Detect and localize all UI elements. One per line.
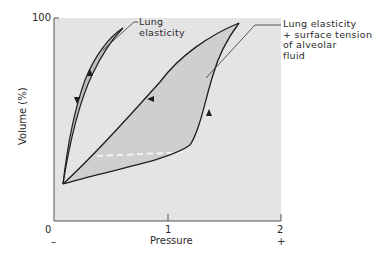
small-loop-annotation: Lung elasticity: [139, 17, 185, 38]
x-axis-minus-sign: –: [51, 236, 56, 247]
large-loop-label-line3: of alveolar: [283, 40, 372, 51]
x-tick-label-2: 2: [277, 224, 283, 235]
x-axis-plus-sign: +: [277, 236, 285, 247]
y-tick-label-100: 100: [32, 12, 51, 23]
pressure-volume-figure: 100 0 1 2 – + Pressure Volume (%) Lung e…: [0, 0, 384, 257]
small-loop-label-line1: Lung: [139, 17, 185, 28]
x-tick-label-1: 1: [165, 224, 171, 235]
small-loop-label-line2: elasticity: [139, 28, 185, 39]
large-loop-label-line1: Lung elasticity: [283, 19, 372, 30]
large-loop-annotation: Lung elasticity + surface tension of alv…: [283, 19, 372, 61]
y-axis-label: Volume (%): [17, 87, 28, 145]
origin-tick-label: 0: [45, 224, 51, 235]
large-loop-label-line4: fluid: [283, 51, 372, 62]
x-axis-label: Pressure: [150, 235, 193, 246]
